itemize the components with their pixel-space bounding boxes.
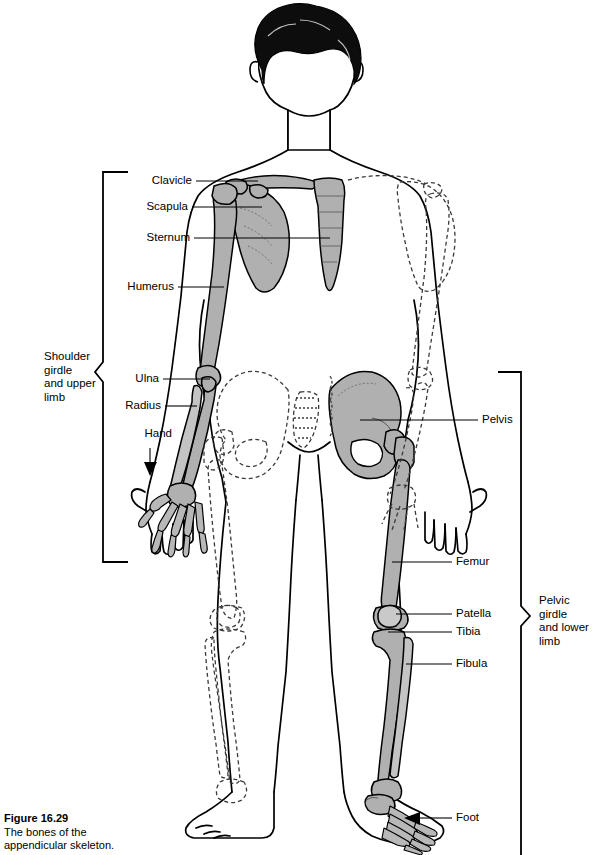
group-label-shoulder-line4: limb [44, 391, 104, 405]
label-femur: Femur [456, 555, 489, 568]
label-scapula: Scapula [62, 200, 188, 213]
bracket-pelvic-girdle [498, 372, 530, 855]
group-label-shoulder-line1: Shoulder [44, 350, 104, 364]
label-patella: Patella [456, 607, 491, 620]
figure-number: Figure 16.29 [4, 812, 68, 824]
label-clavicle: Clavicle [66, 174, 192, 187]
label-foot: Foot [456, 811, 479, 824]
humerus-bone [200, 189, 237, 375]
label-sternum: Sternum [64, 231, 190, 244]
patella-bone [378, 605, 401, 627]
figure-caption-line1: The bones of the [4, 826, 114, 840]
label-fibula: Fibula [456, 657, 487, 670]
group-label-pelvic-girdle: Pelvic girdle and lower limb [539, 594, 603, 648]
group-label-shoulder-line2: girdle [44, 364, 104, 378]
figure-caption: Figure 16.29 The bones of the appendicul… [4, 812, 114, 853]
label-humerus: Humerus [48, 280, 174, 293]
sternum-bone [314, 178, 345, 291]
hand-arrowhead [144, 462, 157, 476]
group-label-shoulder-girdle: Shoulder girdle and upper limb [44, 350, 104, 404]
group-label-pelvic-line3: and lower [539, 621, 603, 635]
shaded-bones-lower-limb [329, 371, 437, 855]
group-label-pelvic-line4: limb [539, 635, 603, 649]
label-pelvis: Pelvis [482, 413, 513, 426]
femur-bone [381, 460, 410, 619]
group-label-shoulder-line3: and upper [44, 377, 104, 391]
head [250, 4, 363, 150]
group-label-pelvic-line2: girdle [539, 608, 603, 622]
label-tibia: Tibia [456, 625, 481, 638]
group-label-pelvic-line1: Pelvic [539, 594, 603, 608]
figure-caption-line2: appendicular skeleton. [4, 839, 114, 853]
label-hand: Hand [46, 427, 172, 440]
